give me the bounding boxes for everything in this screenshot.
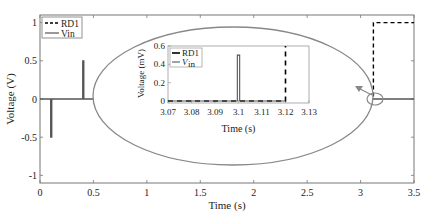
x-tick-label: 3.5 bbox=[408, 187, 421, 198]
inset-x-tick-label: 3.07 bbox=[160, 107, 176, 117]
inset-x-tick-label: 3.11 bbox=[254, 107, 269, 117]
inset-x-axis-label: Time (s) bbox=[222, 123, 256, 135]
inset-y-tick-label: 0.4 bbox=[154, 59, 166, 69]
y-tick-label: 0 bbox=[32, 94, 37, 105]
x-tick-label: 3 bbox=[358, 187, 363, 198]
x-axis-label: Time (s) bbox=[208, 199, 246, 212]
inset-y-axis-label: Voltage (mV) bbox=[136, 49, 146, 98]
inset-x-tick-label: 3.09 bbox=[207, 107, 223, 117]
y-tick-label: 1 bbox=[32, 17, 37, 28]
inset-x-tick-label: 3.1 bbox=[233, 107, 244, 117]
x-tick-label: 2.5 bbox=[301, 187, 314, 198]
x-tick-label: 0 bbox=[38, 187, 43, 198]
x-tick-label: 1 bbox=[144, 187, 149, 198]
y-axis-label: Voltage (V) bbox=[4, 73, 17, 125]
inset-y-tick-label: 0 bbox=[161, 96, 166, 106]
legend-label-vin: Vin bbox=[61, 29, 75, 39]
inset-x-tick-label: 3.12 bbox=[278, 107, 294, 117]
legend-label-rd1: RD1 bbox=[61, 19, 79, 29]
y-tick-label: -0.5 bbox=[21, 132, 37, 143]
y-tick-label: -1 bbox=[29, 170, 37, 181]
inset-x-tick-label: 3.08 bbox=[184, 107, 200, 117]
inset-legend: RD1Vin bbox=[170, 48, 202, 69]
chart-canvas: 00.511.522.533.5-1-0.500.51 RD1Vin Time … bbox=[0, 0, 434, 217]
inset-y-tick-label: 0.2 bbox=[154, 78, 165, 88]
inset-x-tick-label: 3.13 bbox=[301, 107, 317, 117]
x-tick-label: 0.5 bbox=[87, 187, 100, 198]
x-tick-label: 2 bbox=[251, 187, 256, 198]
main-legend: RD1Vin bbox=[42, 17, 82, 39]
inset-y-tick-label: 0.6 bbox=[154, 41, 166, 51]
inset-legend-label-vin-sub: in bbox=[188, 59, 196, 69]
y-tick-label: 0.5 bbox=[25, 55, 38, 66]
x-tick-label: 1.5 bbox=[194, 187, 207, 198]
